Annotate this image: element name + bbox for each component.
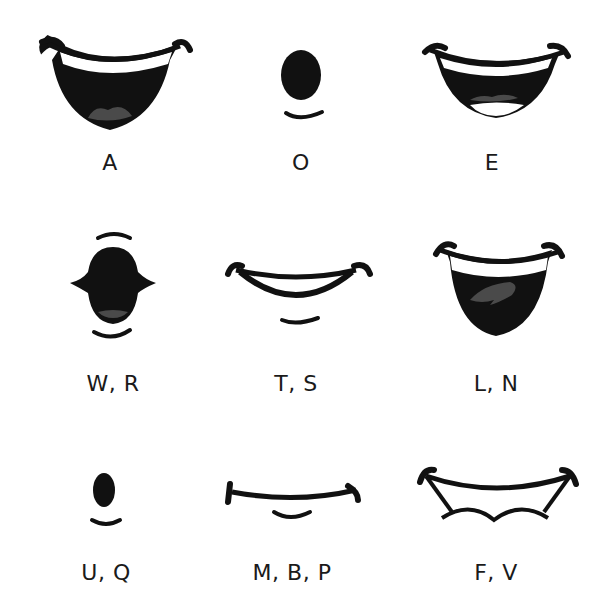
- mouth-shape-fv: F, V: [0, 0, 603, 611]
- phoneme-label: F, V: [474, 560, 518, 585]
- mouth-fv-icon: [0, 0, 603, 611]
